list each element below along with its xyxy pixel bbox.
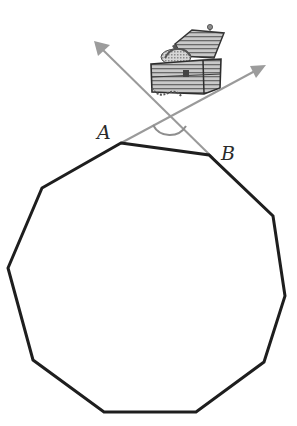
treasure-chest-icon <box>151 24 224 97</box>
vertex-label-a: A <box>95 121 111 143</box>
decagon-diagram: A B <box>0 0 297 426</box>
decagon <box>8 143 285 412</box>
extension-ray-b <box>94 41 213 158</box>
vertex-label-b: B <box>220 142 235 164</box>
